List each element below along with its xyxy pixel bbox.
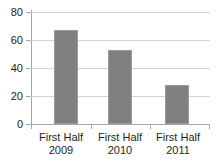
bar-first-half-2011[interactable]: [165, 85, 189, 124]
x-tick-0: [31, 125, 32, 129]
y-axis-label-80: 80: [0, 7, 23, 18]
y-axis-label-60: 60: [0, 35, 23, 46]
x-label-2010-line1: First Half: [89, 131, 151, 144]
x-label-2011-line1: First Half: [147, 131, 209, 144]
x-label-2010-line2: 2010: [89, 144, 151, 157]
x-axis-category-labels: First Half 2009 First Half 2010 First Ha…: [31, 131, 210, 165]
x-label-first-half-2009: First Half 2009: [30, 131, 92, 157]
x-label-first-half-2010: First Half 2010: [89, 131, 151, 157]
x-tick-3: [209, 125, 210, 129]
bar-first-half-2010[interactable]: [108, 50, 132, 124]
y-axis-label-0: 0: [0, 119, 23, 130]
x-tick-2: [150, 125, 151, 129]
x-label-2009-line1: First Half: [30, 131, 92, 144]
plot-area: [31, 12, 210, 124]
y-axis-label-40: 40: [0, 63, 23, 74]
x-axis-line: [31, 124, 210, 125]
y-axis-label-20: 20: [0, 91, 23, 102]
bar-chart: 80 60 40 20 0 First Half 2009: [0, 0, 216, 168]
gridline-80: [31, 12, 210, 13]
x-label-2011-line2: 2011: [147, 144, 209, 157]
bar-first-half-2009[interactable]: [54, 30, 78, 124]
x-label-first-half-2011: First Half 2011: [147, 131, 209, 157]
x-tick-1: [91, 125, 92, 129]
x-label-2009-line2: 2009: [30, 144, 92, 157]
